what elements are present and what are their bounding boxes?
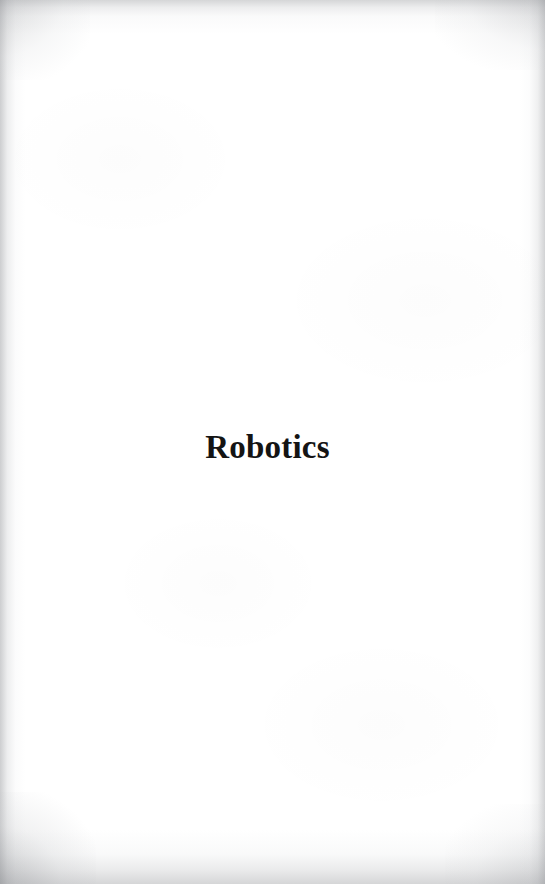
scan-corner-bottom-right <box>445 804 545 884</box>
scan-edge-bottom <box>0 830 545 884</box>
part-title-block: Robotics <box>0 430 545 464</box>
scan-corner-bottom-left <box>0 792 96 884</box>
scan-edge-top <box>0 0 545 34</box>
page-title: Robotics <box>205 430 329 464</box>
scan-corner-top-right <box>435 0 545 70</box>
scanned-page: Robotics <box>0 0 545 884</box>
scan-corner-top-left <box>0 0 90 80</box>
